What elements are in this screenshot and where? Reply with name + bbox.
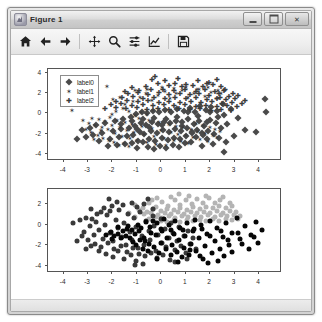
data-point — [197, 106, 202, 111]
data-point — [197, 217, 202, 222]
axes-bottom[interactable]: -4-3-2-101234-4-202 — [47, 188, 281, 272]
data-point — [231, 133, 238, 140]
data-point — [241, 127, 248, 134]
y-tick — [45, 112, 48, 113]
y-tick — [45, 224, 48, 225]
y-tick-label: 2 — [37, 89, 41, 96]
data-point — [170, 243, 175, 248]
data-point — [190, 134, 195, 139]
data-point — [92, 122, 97, 127]
data-point — [70, 221, 75, 226]
x-tick-label: 3 — [232, 278, 236, 285]
x-tick — [234, 271, 235, 274]
configure-subplots-button[interactable] — [124, 32, 144, 52]
data-point — [136, 228, 141, 233]
data-point — [106, 197, 111, 202]
data-point — [140, 261, 145, 266]
data-point — [200, 123, 205, 128]
data-point — [163, 143, 168, 148]
y-tick — [45, 133, 48, 134]
back-button[interactable] — [35, 32, 55, 52]
axes-top[interactable]: label0label1label2 -4-3-2-101234-4-2024 — [47, 68, 281, 160]
y-tick-label: -4 — [35, 261, 41, 268]
close-button[interactable]: ✕ — [285, 12, 309, 26]
figure-canvas[interactable]: label0label1label2 -4-3-2-101234-4-2024 … — [11, 55, 311, 299]
x-tick — [258, 271, 259, 274]
toolbar-separator-1 — [79, 34, 80, 49]
edit-axis-button[interactable] — [144, 32, 164, 52]
legend-marker — [64, 96, 73, 104]
data-point — [143, 254, 148, 259]
data-point — [134, 105, 139, 110]
data-point — [141, 131, 146, 136]
data-point — [110, 254, 115, 259]
data-point — [141, 201, 146, 206]
x-tick — [136, 159, 137, 162]
pan-button[interactable] — [84, 32, 104, 52]
maximize-button[interactable] — [264, 12, 283, 26]
data-point — [207, 218, 212, 223]
zoom-button[interactable] — [104, 32, 124, 52]
home-button[interactable] — [15, 32, 35, 52]
figure-window: Figure 1 ✕ — [7, 7, 315, 315]
data-point — [96, 248, 101, 253]
data-point — [173, 123, 178, 128]
data-point — [116, 249, 121, 254]
data-point — [149, 230, 154, 235]
data-point — [158, 240, 163, 245]
data-point — [195, 112, 202, 119]
data-point — [187, 107, 192, 112]
y-tick-label: 0 — [37, 109, 41, 116]
data-point — [78, 218, 83, 223]
y-tick — [45, 244, 48, 245]
x-tick-label: -2 — [109, 166, 115, 173]
data-point — [165, 235, 170, 240]
data-point — [195, 129, 200, 134]
floppy-disk-icon — [177, 35, 190, 48]
data-point — [155, 105, 160, 110]
data-point — [121, 203, 126, 208]
navigation-toolbar — [11, 29, 311, 55]
x-tick-label: 4 — [256, 278, 260, 285]
forward-button[interactable] — [55, 32, 75, 52]
data-point — [123, 233, 128, 238]
data-point — [183, 233, 188, 238]
data-point — [89, 115, 94, 120]
data-point — [228, 107, 233, 112]
data-point — [144, 112, 149, 117]
data-point — [118, 243, 123, 248]
data-point — [188, 241, 193, 246]
x-tick-label: -1 — [133, 278, 139, 285]
data-point — [195, 197, 200, 202]
data-point — [137, 238, 142, 243]
minimize-button[interactable] — [243, 12, 262, 26]
data-point — [79, 234, 84, 239]
data-point — [143, 239, 148, 244]
data-point — [117, 125, 122, 130]
data-point — [205, 261, 210, 266]
y-tick — [45, 92, 48, 93]
data-point — [227, 242, 232, 247]
data-point — [193, 217, 198, 222]
data-point — [101, 205, 106, 210]
data-point — [132, 263, 137, 268]
x-tick-label: -1 — [133, 166, 139, 173]
window-controls: ✕ — [243, 12, 309, 26]
data-point — [210, 251, 215, 256]
data-point — [224, 120, 231, 127]
data-point — [229, 249, 234, 254]
y-tick — [45, 72, 48, 73]
data-point — [227, 200, 232, 205]
x-tick-label: 2 — [207, 278, 211, 285]
data-point — [222, 253, 227, 258]
data-point — [156, 119, 161, 124]
data-point — [134, 137, 139, 142]
save-button[interactable] — [173, 32, 193, 52]
y-tick-label: -2 — [35, 241, 41, 248]
data-point — [91, 232, 96, 237]
data-point — [177, 192, 182, 197]
data-point — [125, 226, 130, 231]
data-point — [104, 83, 109, 88]
data-point — [95, 212, 100, 217]
data-point — [114, 200, 119, 205]
